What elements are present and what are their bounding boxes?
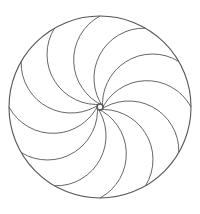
spiral-arc — [21, 62, 101, 114]
spiral-arc — [96, 108, 126, 198]
spiral-arc — [101, 81, 191, 111]
pinwheel-figure — [0, 0, 200, 214]
spiral-arc — [74, 16, 104, 106]
spiral-arc — [99, 101, 179, 153]
spiral-arc — [47, 28, 103, 104]
spiral-arcs — [9, 16, 191, 198]
spiral-arc — [97, 110, 153, 186]
spiral-arc — [55, 106, 107, 186]
spiral-arc — [9, 103, 99, 133]
spiral-arc — [21, 104, 97, 160]
outer-circle — [9, 16, 191, 198]
spiral-arc — [103, 54, 179, 110]
spiral-arc — [94, 28, 146, 108]
pinwheel-svg — [0, 0, 200, 214]
